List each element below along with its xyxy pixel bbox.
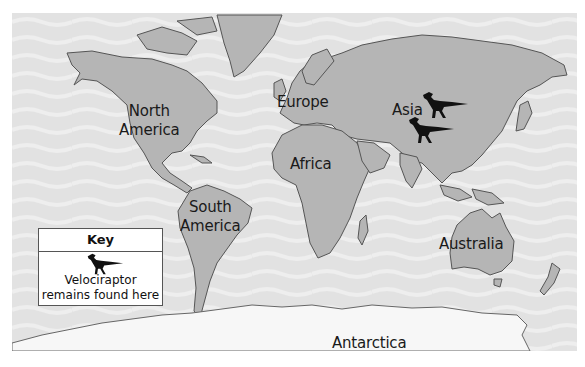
label-australia: Australia (439, 235, 504, 254)
key-title: Key (39, 229, 162, 252)
label-south-america-line2: America (180, 217, 240, 236)
label-north-america-line1: North (119, 102, 179, 121)
key-description: Velociraptor remains found here (39, 273, 162, 303)
velociraptor-icon (84, 253, 126, 275)
label-africa: Africa (290, 155, 332, 174)
label-south-america: South America (180, 198, 240, 236)
velociraptor-icon (406, 116, 456, 144)
label-north-america: North America (119, 102, 179, 140)
label-europe: Europe (277, 93, 329, 112)
label-south-america-line1: South (180, 198, 240, 217)
key-description-line1: Velociraptor (39, 273, 162, 288)
label-north-america-line2: America (119, 121, 179, 140)
velociraptor-icon (420, 91, 470, 119)
label-antarctica: Antarctica (332, 334, 406, 351)
key-description-line2: remains found here (39, 288, 162, 303)
map-key: Key Velociraptor remains found here (38, 228, 163, 306)
